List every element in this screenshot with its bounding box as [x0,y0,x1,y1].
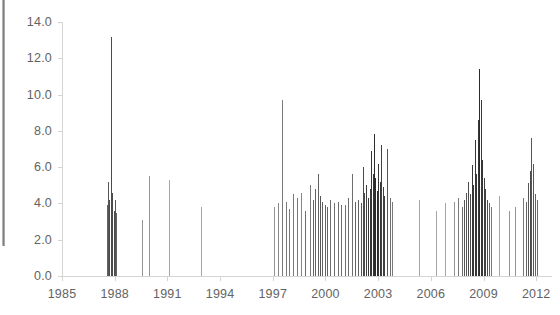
y-axis-tick-label: 6.0 [6,161,52,174]
x-axis-tick-labels: 1985198819911994199720002003200620092012 [0,288,560,308]
x-axis-tick-label: 2009 [469,288,498,301]
y-axis-tick-label: 0.0 [6,270,52,283]
y-axis-tick-label: 2.0 [6,234,52,247]
x-axis-tick-label: 1994 [206,288,235,301]
x-axis-tick-label: 1997 [258,288,287,301]
chart-series-spikes [62,22,558,278]
x-axis-tick-label: 1985 [48,288,77,301]
plot-area [62,22,552,276]
y-axis-tick-labels: 0.02.04.06.08.010.012.014.0 [0,0,52,315]
y-axis-tick-label: 10.0 [6,89,52,102]
y-axis-tick-label: 14.0 [6,16,52,29]
spike-chart: 0.02.04.06.08.010.012.014.0 198519881991… [0,0,560,315]
y-axis-tick-label: 4.0 [6,197,52,210]
x-axis-tick-label: 1991 [153,288,182,301]
y-axis-tick-label: 8.0 [6,125,52,138]
x-axis-tick-label: 2003 [364,288,393,301]
x-axis-tick-label: 1988 [100,288,129,301]
x-axis-tick-label: 2000 [311,288,340,301]
y-axis-tick-label: 12.0 [6,52,52,65]
x-axis-tick-label: 2012 [522,288,551,301]
x-axis-tick-label: 2006 [417,288,446,301]
